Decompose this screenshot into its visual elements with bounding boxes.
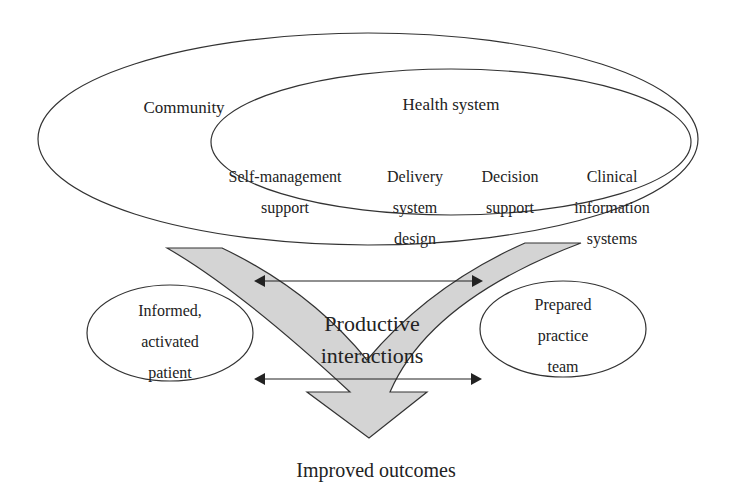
svg-text:support: support [486,199,535,217]
svg-text:activated: activated [141,333,199,350]
improved-outcomes-label: Improved outcomes [296,459,456,482]
svg-text:support: support [261,199,310,217]
svg-text:information: information [574,199,650,216]
component-clinical-information-systems: Clinical information systems [574,168,650,248]
svg-text:design: design [394,230,436,248]
svg-text:Delivery: Delivery [387,168,443,186]
community-label: Community [143,98,225,117]
svg-text:system: system [393,199,438,217]
chronic-care-model-diagram: Community Health system Self-management … [0,0,737,484]
svg-text:Informed,: Informed, [138,302,202,319]
svg-text:Clinical: Clinical [587,168,638,185]
svg-text:Prepared: Prepared [535,296,592,314]
svg-text:patient: patient [148,364,192,382]
svg-text:interactions: interactions [321,343,424,368]
component-self-management: Self-management support [229,168,342,217]
component-delivery-system-design: Delivery system design [387,168,443,248]
svg-text:systems: systems [587,230,638,248]
health-system-ellipse [211,69,691,215]
svg-text:Decision: Decision [482,168,539,185]
health-system-label: Health system [403,95,500,114]
svg-text:Self-management: Self-management [229,168,342,186]
svg-text:Productive: Productive [324,311,419,336]
component-decision-support: Decision support [482,168,539,217]
svg-text:team: team [547,358,579,375]
svg-text:practice: practice [538,327,589,345]
